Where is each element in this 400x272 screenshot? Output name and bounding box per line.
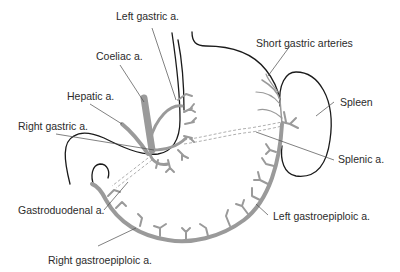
leader-left-gastroepiploic	[256, 204, 268, 215]
label-splenic: Splenic a.	[338, 153, 384, 165]
label-coeliac: Coeliac a.	[96, 50, 143, 62]
label-right-gastric: Right gastric a.	[18, 120, 88, 132]
splenic-artery-dashed	[184, 122, 282, 144]
label-right-gastroepiploic: Right gastroepiploic a.	[48, 254, 152, 266]
gastroepiploic-arcade	[92, 124, 282, 241]
leader-hepatic	[90, 104, 122, 124]
label-left-gastric: Left gastric a.	[116, 10, 179, 22]
labels: Left gastric a. Coeliac a. Hepatic a. Ri…	[18, 10, 384, 266]
short-gastric-arteries	[256, 74, 298, 128]
label-hepatic: Hepatic a.	[67, 90, 114, 102]
label-spleen: Spleen	[340, 96, 373, 108]
label-short-gastric: Short gastric arteries	[256, 37, 353, 49]
leader-right-gastroepiploic	[98, 228, 136, 246]
diagram-svg: Left gastric a. Coeliac a. Hepatic a. Ri…	[0, 0, 400, 272]
label-left-gastroepiploic: Left gastroepiploic a.	[273, 210, 370, 222]
stomach-artery-diagram: Left gastric a. Coeliac a. Hepatic a. Ri…	[0, 0, 400, 272]
leader-coeliac	[120, 65, 144, 102]
leader-short-gastric	[268, 46, 290, 76]
gastroduodenal-dashed	[112, 158, 152, 188]
label-gastroduodenal: Gastroduodenal a.	[18, 204, 104, 216]
